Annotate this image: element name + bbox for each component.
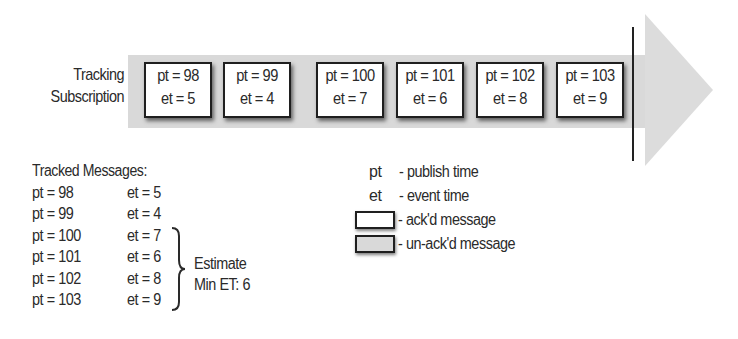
legend-item-acked: - ack'd message xyxy=(355,208,528,232)
legend: pt - publish time et - event time - ack'… xyxy=(355,160,528,256)
tracked-pt: pt = 99 xyxy=(32,203,118,225)
estimate-line1: Estimate xyxy=(194,253,250,274)
legend-desc: - un-ack'd message xyxy=(398,233,515,255)
tracked-pt: pt = 100 xyxy=(32,225,118,247)
tracked-et: et = 4 xyxy=(127,203,161,225)
unacked-swatch-icon xyxy=(355,235,395,253)
tracked-pt: pt = 98 xyxy=(32,182,118,204)
message-et: et = 6 xyxy=(402,87,457,110)
message-pt: pt = 100 xyxy=(322,64,377,87)
acked-swatch-icon xyxy=(355,211,395,229)
tracked-et: et = 5 xyxy=(127,182,161,204)
tracked-row: pt = 98et = 5 xyxy=(32,182,164,204)
legend-desc: - ack'd message xyxy=(398,209,496,231)
message-pt: pt = 101 xyxy=(402,64,457,87)
message-et: et = 7 xyxy=(322,87,377,110)
message-pt: pt = 98 xyxy=(150,64,205,87)
watermark-line xyxy=(632,27,634,161)
tracked-et: et = 9 xyxy=(127,289,161,311)
tracked-et: et = 6 xyxy=(127,246,161,268)
message-box: pt = 103 et = 9 xyxy=(556,62,624,118)
curly-brace-icon xyxy=(170,226,186,312)
tracked-pt: pt = 101 xyxy=(32,246,118,268)
legend-desc: - event time xyxy=(399,185,469,207)
message-box: pt = 98 et = 5 xyxy=(144,62,212,118)
message-box: pt = 101 et = 6 xyxy=(396,62,464,118)
tracked-pt: pt = 103 xyxy=(32,289,118,311)
tracked-pt: pt = 102 xyxy=(32,268,118,290)
message-et: et = 4 xyxy=(229,87,284,110)
estimate-line2: Min ET: 6 xyxy=(194,274,250,295)
legend-item-unacked: - un-ack'd message xyxy=(355,232,528,256)
legend-key: et xyxy=(355,185,399,207)
tracked-row: pt = 100et = 7 xyxy=(32,225,164,247)
message-pt: pt = 99 xyxy=(229,64,284,87)
tracked-title: Tracked Messages: xyxy=(32,160,149,182)
tracked-row: pt = 99et = 4 xyxy=(32,203,164,225)
stream-label: Tracking Subscription xyxy=(36,64,124,108)
stream-label-line1: Tracking xyxy=(36,64,124,86)
message-pt: pt = 102 xyxy=(482,64,537,87)
message-et: et = 8 xyxy=(482,87,537,110)
legend-desc: - publish time xyxy=(399,161,478,183)
estimate-label: Estimate Min ET: 6 xyxy=(194,253,250,295)
message-box: pt = 102 et = 8 xyxy=(476,62,544,118)
stream-label-line2: Subscription xyxy=(36,86,124,108)
tracked-et: et = 8 xyxy=(127,268,161,290)
legend-key: pt xyxy=(355,161,399,183)
message-pt: pt = 103 xyxy=(562,64,617,87)
tracked-row: pt = 101et = 6 xyxy=(32,246,164,268)
tracked-et: et = 7 xyxy=(127,225,161,247)
tracked-row: pt = 102et = 8 xyxy=(32,268,164,290)
tracked-row: pt = 103et = 9 xyxy=(32,289,164,311)
stream-arrow-head xyxy=(645,14,713,166)
legend-item-et: et - event time xyxy=(355,184,528,208)
tracked-messages-list: Tracked Messages: pt = 98et = 5 pt = 99e… xyxy=(32,160,164,311)
message-et: et = 5 xyxy=(150,87,205,110)
message-box: pt = 99 et = 4 xyxy=(223,62,291,118)
legend-item-pt: pt - publish time xyxy=(355,160,528,184)
message-box: pt = 100 et = 7 xyxy=(316,62,384,118)
message-et: et = 9 xyxy=(562,87,617,110)
